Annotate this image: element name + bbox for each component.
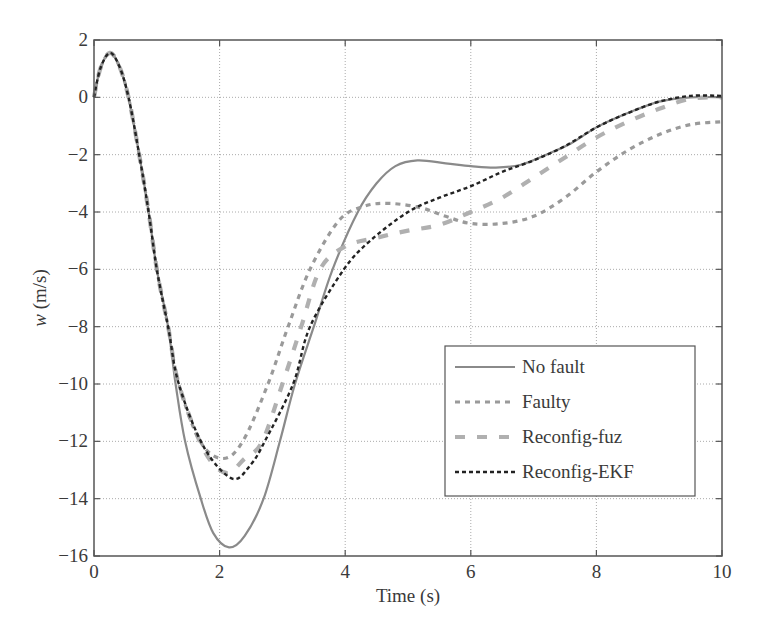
y-tick-label: −2 (68, 144, 88, 165)
y-tick-label: 0 (79, 86, 89, 107)
legend: No faultFaultyReconfig-fuzReconfig-EKF (445, 346, 695, 496)
x-tick-label: 6 (466, 561, 476, 582)
y-tick-label: 2 (79, 29, 89, 50)
y-axis-label: w (m/s) (29, 269, 51, 327)
x-tick-label: 0 (89, 561, 99, 582)
y-tick-label: −8 (68, 316, 88, 337)
y-tick-label: −6 (68, 258, 88, 279)
x-tick-label: 4 (340, 561, 350, 582)
y-tick-label: −16 (58, 545, 88, 566)
x-tick-label: 8 (592, 561, 602, 582)
y-tick-label: −4 (68, 201, 89, 222)
legend-label: Reconfig-fuz (522, 426, 622, 447)
y-tick-label: −12 (58, 430, 88, 451)
x-tick-label: 2 (215, 561, 225, 582)
x-axis-label: Time (s) (376, 585, 440, 607)
y-tick-label: −10 (58, 373, 88, 394)
x-tick-label: 10 (713, 561, 732, 582)
legend-label: Faulty (522, 391, 571, 412)
y-tick-label: −14 (58, 488, 88, 509)
line-chart: 024681020−2−4−6−8−10−12−14−16 Time (s) w… (0, 0, 762, 634)
legend-label: Reconfig-EKF (522, 461, 634, 482)
y-axis-label-variable: w (29, 314, 50, 327)
legend-label: No fault (522, 356, 586, 377)
y-axis-label-unit: (m/s) (29, 269, 51, 314)
